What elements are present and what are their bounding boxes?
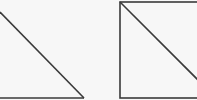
- square-diagonal: [120, 2, 197, 98]
- diagram-canvas: [0, 0, 197, 100]
- triangle-shape: [0, 12, 84, 98]
- triangle-hypotenuse: [0, 12, 84, 98]
- square-outline: [120, 2, 197, 98]
- square-with-diagonal-shape: [120, 2, 197, 98]
